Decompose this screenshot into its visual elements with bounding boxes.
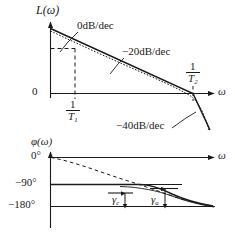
leader-minus20db: [110, 58, 124, 74]
phase-tick-0: 0°: [31, 150, 41, 161]
break-1-over-T1-label: 1 T1: [66, 99, 80, 124]
break2-denominator: T2: [186, 72, 200, 85]
break1-numerator: 1: [66, 99, 80, 110]
phase-x-axis-label: ω: [218, 150, 226, 161]
gamma-a-label: γa: [151, 194, 159, 206]
magnitude-zero-label: 0: [32, 86, 38, 97]
bode-plot-figure: L(ω) 0dB/dec −20dB/dec −40dB/dec 0 1 T1 …: [0, 0, 235, 237]
phase-secondary-curve: [120, 187, 214, 208]
phase-tick-minus90: −90°: [15, 177, 37, 188]
break2-numerator: 1: [186, 61, 200, 72]
phase-asymptote-curve: [51, 158, 213, 207]
magnitude-x-axis-label: ω: [218, 86, 226, 97]
slope-minus40db-label: −40dB/dec: [116, 120, 164, 131]
phase-y-axis-label: φ(ω): [31, 136, 52, 147]
gamma-c-label: γc: [112, 194, 119, 206]
slope-0db-label: 0dB/dec: [77, 20, 114, 31]
break1-denominator: T1: [66, 110, 80, 123]
phase-tick-minus180: −180°: [8, 199, 35, 210]
leader-minus40db: [172, 112, 196, 128]
magnitude-y-axis-label: L(ω): [36, 4, 59, 16]
break-1-over-T2-label: 1 T2: [186, 61, 200, 86]
slope-minus20db-label: −20dB/dec: [122, 46, 170, 57]
phase-actual-curve: [51, 185, 213, 207]
